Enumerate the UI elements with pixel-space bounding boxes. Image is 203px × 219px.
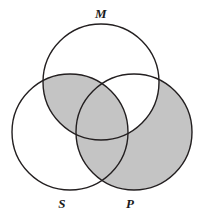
circle-label-m: M [89, 7, 113, 20]
region-p-shaded-fill [0, 0, 203, 219]
circle-label-p: P [118, 197, 142, 210]
venn-diagram-figure: M S P [0, 0, 203, 219]
shaded-regions-group [0, 0, 203, 219]
region-p-shaded [0, 0, 203, 219]
venn-diagram-svg [0, 0, 203, 219]
circle-label-s: S [50, 197, 74, 210]
